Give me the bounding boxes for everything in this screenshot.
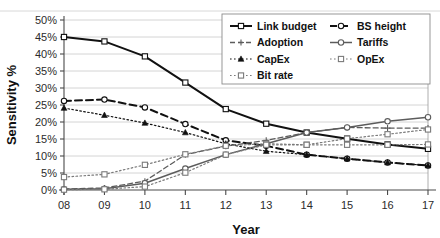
data-point-marker (223, 143, 228, 148)
data-point-marker (238, 23, 243, 28)
data-point-marker (385, 142, 390, 147)
y-axis-tick-label: 50% (35, 14, 57, 26)
data-point-marker (223, 106, 228, 111)
legend-label: BS height (357, 20, 407, 32)
y-axis-tick-label: 30% (35, 82, 57, 94)
legend-label: CapEx (257, 53, 290, 65)
data-point-marker (102, 112, 108, 117)
series-adoption (61, 124, 431, 192)
x-axis-tick-label: 09 (98, 199, 110, 211)
data-point-marker (345, 142, 350, 147)
data-point-marker (238, 73, 243, 78)
x-axis-tick-label: 08 (58, 199, 70, 211)
chart-canvas: 0%5%10%15%20%25%30%35%40%45%50%080910111… (0, 0, 440, 238)
data-point-marker (304, 130, 309, 135)
data-point-marker (183, 121, 188, 126)
data-point-marker (264, 142, 269, 147)
data-point-marker (142, 54, 147, 59)
x-axis-tick-label: 17 (422, 199, 434, 211)
x-axis-tick-label: 11 (180, 199, 191, 211)
y-axis-tick-label: 25% (35, 99, 57, 111)
data-point-marker (183, 170, 188, 175)
series-bs-height (61, 97, 430, 168)
data-point-marker (425, 115, 430, 120)
x-axis-tick-label: 12 (220, 199, 232, 211)
y-axis-tick-label: 20% (35, 116, 57, 128)
legend-label: Tariffs (357, 36, 388, 48)
x-axis-tick-label: 14 (301, 199, 313, 211)
data-point-marker (142, 105, 147, 110)
data-point-marker (61, 34, 66, 39)
data-point-marker (102, 172, 107, 177)
legend-label: Adoption (257, 36, 303, 48)
data-point-marker (223, 152, 228, 157)
data-point-marker (425, 142, 430, 147)
data-point-marker (344, 125, 349, 130)
x-axis-tick-label: 15 (341, 199, 353, 211)
legend-label: OpEx (357, 53, 385, 65)
sensitivity-line-chart: 0%5%10%15%20%25%30%35%40%45%50%080910111… (0, 0, 440, 238)
data-point-marker (264, 121, 269, 126)
series-opex (61, 127, 430, 180)
y-axis-title: Sensitivity % (4, 64, 19, 145)
x-axis-title: Year (232, 222, 259, 237)
chart-legend: Link budgetAdoptionCapExBit rateBS heigh… (222, 14, 430, 84)
data-point-marker (61, 105, 67, 110)
y-axis-tick-label: 15% (35, 133, 57, 145)
data-point-marker (102, 187, 107, 192)
data-point-marker (102, 39, 107, 44)
data-point-marker (425, 127, 430, 132)
y-axis-tick-label: 10% (35, 150, 57, 162)
x-axis-tick-label: 13 (260, 199, 272, 211)
data-point-marker (385, 132, 390, 137)
data-point-marker (385, 119, 390, 124)
data-point-marker (61, 98, 66, 103)
series-bit-rate (61, 142, 430, 192)
y-axis-tick-label: 0% (41, 184, 57, 196)
data-point-marker (338, 23, 343, 28)
data-point-marker (61, 174, 66, 179)
data-point-marker (183, 80, 188, 85)
series-line (64, 127, 428, 189)
series-line (64, 144, 428, 189)
data-point-marker (61, 187, 66, 192)
series-line (64, 129, 428, 177)
legend-label: Link budget (257, 20, 317, 32)
y-axis-tick-label: 40% (35, 48, 57, 60)
series-tariffs (61, 115, 430, 192)
data-point-marker (142, 184, 147, 189)
legend-label: Bit rate (257, 69, 293, 81)
data-point-marker (304, 142, 309, 147)
data-point-marker (102, 97, 107, 102)
data-point-marker (385, 125, 391, 131)
data-point-marker (338, 56, 343, 61)
data-point-marker (345, 136, 350, 141)
data-point-marker (338, 40, 343, 45)
y-axis-tick-label: 35% (35, 65, 57, 77)
series-capex (61, 105, 431, 168)
y-axis-tick-label: 5% (41, 167, 57, 179)
y-axis-tick-label: 45% (35, 31, 57, 43)
x-axis-tick-label: 16 (381, 199, 393, 211)
x-axis-tick-label: 10 (139, 199, 151, 211)
data-point-marker (142, 162, 147, 167)
data-point-marker (183, 152, 188, 157)
